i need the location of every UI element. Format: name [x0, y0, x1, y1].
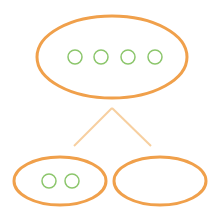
- left-child-node-item-circle-0: [42, 174, 56, 188]
- root-node-item-circle-0: [68, 50, 82, 64]
- right-child-node-ellipse: [114, 157, 206, 205]
- root-node-item-circle-3: [148, 50, 162, 64]
- left-child-node-item-circle-1: [65, 174, 79, 188]
- edge-line-0: [74, 108, 112, 146]
- edge-line-1: [112, 108, 151, 146]
- left-child-node-ellipse: [14, 157, 106, 205]
- root-node-item-circle-1: [94, 50, 108, 64]
- root-node-ellipse: [37, 16, 187, 98]
- tree-diagram: [0, 0, 220, 219]
- root-node-item-circle-2: [121, 50, 135, 64]
